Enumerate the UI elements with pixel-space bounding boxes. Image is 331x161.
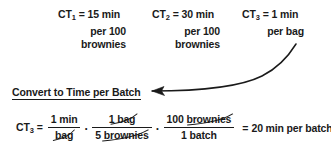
ct2-symbol: CT <box>152 8 166 20</box>
ct2-equals: = <box>173 8 179 20</box>
fraction-3-numerator-text: 100 brownies <box>167 113 232 125</box>
fraction-1: 1 min bag <box>48 113 81 142</box>
equation-result: =20 min per batch <box>242 122 331 134</box>
fraction-2-bar <box>92 127 151 128</box>
ct2-subscript: 2 <box>166 13 170 22</box>
ct3-header: CT3 = 1 min <box>242 8 304 25</box>
ct3-line2: per bag <box>242 25 304 39</box>
cycle-time-definition-1: CT1 = 15 min per 100 brownies <box>58 8 126 52</box>
fraction-2-numerator-text: 1 bag <box>109 113 136 125</box>
equation-lhs-symbol: CT <box>16 121 30 133</box>
cycle-time-definition-3: CT3 = 1 min per bag <box>242 8 304 38</box>
fraction-2-denominator: 5 brownies <box>92 129 151 142</box>
ct1-symbol: CT <box>58 8 72 20</box>
conversion-equation: CT3 = 1 min bag · 1 bag 5 <box>16 113 331 142</box>
fraction-1-bar <box>48 127 81 128</box>
multiplication-dot-1: · <box>84 124 88 134</box>
fraction-2-numerator: 1 bag <box>106 113 139 126</box>
ct2-line2: per 100 <box>152 25 220 39</box>
fraction-2: 1 bag 5 brownies <box>92 113 151 142</box>
ct2-value: 30 min <box>182 8 214 20</box>
fraction-1-denominator: bag <box>52 129 76 142</box>
ct2-line3: brownies <box>152 38 220 52</box>
fraction-1-numerator: 1 min <box>48 113 81 126</box>
ct3-symbol: CT <box>242 8 256 20</box>
ct1-equals: = <box>79 8 85 20</box>
section-heading: Convert to Time per Batch <box>12 86 141 100</box>
fraction-1-denominator-text: bag <box>55 129 73 141</box>
ct1-value: 15 min <box>88 8 120 20</box>
fraction-2-denominator-text: 5 brownies <box>95 129 148 141</box>
ct2-header: CT2 = 30 min <box>152 8 220 25</box>
ct3-value: 1 min <box>272 8 299 20</box>
equation-lhs-equals: = <box>37 121 43 133</box>
fraction-3-bar <box>164 127 235 128</box>
fraction-3-numerator: 100 brownies <box>164 113 235 126</box>
equation-lhs-subscript: 3 <box>30 126 34 135</box>
ct3-equals: = <box>263 8 269 20</box>
ct1-line2: per 100 <box>58 25 126 39</box>
ct1-line3: brownies <box>58 38 126 52</box>
ct3-subscript: 3 <box>256 13 260 22</box>
cycle-time-definition-2: CT2 = 30 min per 100 brownies <box>152 8 220 52</box>
result-value: 20 min per batch <box>251 122 331 134</box>
equation-left-side: CT3 = <box>16 121 43 135</box>
multiplication-dot-2: · <box>156 124 160 134</box>
worksheet-canvas: CT1 = 15 min per 100 brownies CT2 = 30 m… <box>0 0 331 161</box>
result-equals: = <box>242 122 248 134</box>
ct1-header: CT1 = 15 min <box>58 8 126 25</box>
ct1-subscript: 1 <box>72 13 76 22</box>
fraction-3: 100 brownies 1 batch <box>164 113 235 142</box>
fraction-3-denominator: 1 batch <box>178 129 220 142</box>
